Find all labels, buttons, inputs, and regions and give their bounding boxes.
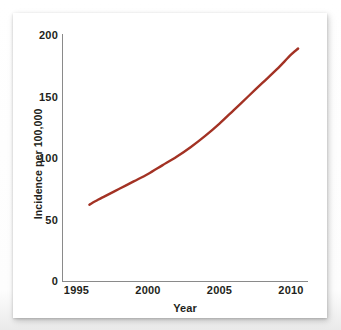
figure-page: 0 50 100 150 200 1995 2000 2005 2010 Inc… — [0, 0, 341, 330]
series-incidence — [13, 13, 327, 318]
plot-area: 0 50 100 150 200 1995 2000 2005 2010 Inc… — [13, 13, 327, 318]
series-incidence-path — [89, 49, 298, 205]
figure-card: 0 50 100 150 200 1995 2000 2005 2010 Inc… — [13, 13, 327, 318]
